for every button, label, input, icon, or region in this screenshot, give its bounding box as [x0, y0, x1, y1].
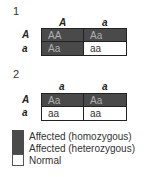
punnett-square-1: AA Aa Aa aa	[41, 28, 127, 56]
legend-label: Affected (homozygous)	[29, 131, 132, 142]
cell-normal: aa	[84, 42, 126, 55]
panel-1-label: 1	[13, 5, 19, 17]
cell-normal: aa	[42, 107, 84, 120]
punnett-square-2: Aa Aa aa aa	[41, 93, 127, 121]
col-header: A	[59, 17, 66, 28]
legend-label: Affected (heterozygous)	[29, 143, 135, 154]
row-header: a	[22, 107, 28, 118]
row-header: A	[22, 94, 29, 105]
swatch-white-icon	[12, 154, 24, 166]
legend-item-heterozygous: Affected (heterozygous)	[12, 142, 135, 154]
col-header: a	[59, 81, 65, 92]
cell-normal: aa	[84, 107, 126, 120]
col-header: a	[102, 17, 108, 28]
col-header: a	[102, 81, 108, 92]
cell-heterozygous: Aa	[84, 29, 126, 42]
legend-label: Normal	[29, 155, 61, 166]
row-header: A	[22, 29, 29, 40]
cell-heterozygous: Aa	[42, 94, 84, 107]
row-header: a	[22, 43, 28, 54]
legend: Affected (homozygous) Affected (heterozy…	[12, 130, 135, 166]
legend-item-normal: Normal	[12, 154, 135, 166]
legend-item-homozygous: Affected (homozygous)	[12, 130, 135, 142]
cell-heterozygous: Aa	[42, 42, 84, 55]
cell-heterozygous: Aa	[84, 94, 126, 107]
cell-homozygous: AA	[42, 29, 84, 42]
swatch-dark-icon	[12, 130, 24, 142]
swatch-dark-icon	[12, 142, 24, 154]
panel-2-label: 2	[13, 68, 19, 80]
